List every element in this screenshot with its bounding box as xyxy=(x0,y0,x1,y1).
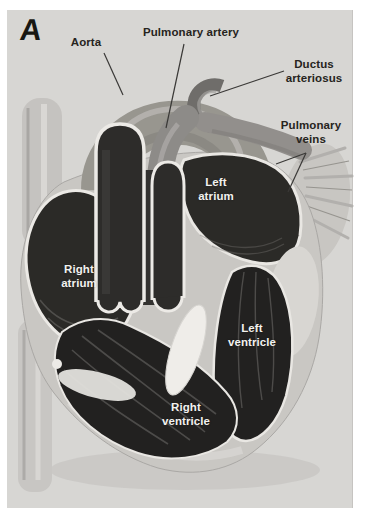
right-atrium-label: Right atrium xyxy=(53,263,105,290)
aorta-label: Aorta xyxy=(56,36,116,50)
panel-letter: A xyxy=(18,13,43,47)
heart-anatomy-figure: A Aorta Pulmonary artery Ductus arterios… xyxy=(0,0,370,508)
pulmonary-artery-label: Pulmonary artery xyxy=(129,26,253,40)
right-ventricle-label: Right ventricle xyxy=(155,401,217,428)
pulmonary-veins-label: Pulmonary veins xyxy=(272,119,350,146)
left-atrium-label: Left atrium xyxy=(191,176,241,203)
left-ventricle-label: Left ventricle xyxy=(221,322,283,349)
pulmonary-trunk-cut xyxy=(152,162,184,300)
ductus-arteriosus-label: Ductus arteriosus xyxy=(278,58,350,85)
